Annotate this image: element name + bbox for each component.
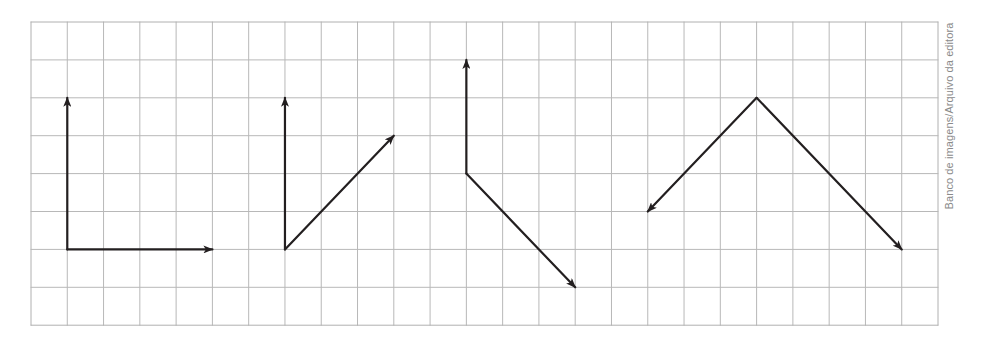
vector-arrow-up-right xyxy=(285,136,394,250)
grid-paper xyxy=(31,22,938,325)
vector-arrow-down-left xyxy=(648,98,757,212)
image-credit: Banco de imagens/Arquivo da editora xyxy=(943,23,955,210)
vector-grid-diagram xyxy=(0,0,990,342)
vector-arrow-down-right xyxy=(466,174,575,288)
